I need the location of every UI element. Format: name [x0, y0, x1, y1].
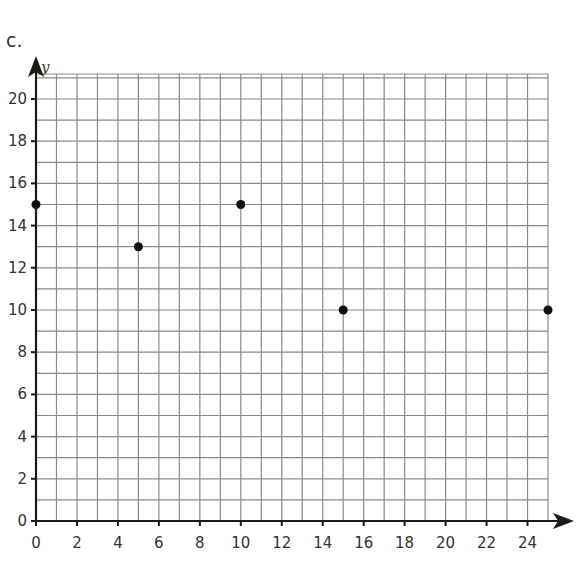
x-tick-label: 18: [395, 534, 414, 552]
y-tick-label: 20: [8, 90, 27, 108]
y-tick-label: 0: [17, 512, 27, 530]
grid-lines: [36, 74, 548, 521]
tick-labels: 02468101214161820222402468101214161820: [8, 90, 537, 552]
x-tick-label: 4: [113, 534, 123, 552]
x-tick-label: 10: [231, 534, 250, 552]
x-tick-label: 24: [518, 534, 537, 552]
data-point: [544, 306, 553, 315]
y-tick-label: 12: [8, 259, 27, 277]
x-tick-label: 14: [313, 534, 332, 552]
y-tick-label: 14: [8, 217, 27, 235]
scatter-chart: 02468101214161820222402468101214161820 y: [0, 0, 577, 575]
x-tick-label: 8: [195, 534, 205, 552]
y-tick-label: 8: [17, 343, 27, 361]
x-tick-label: 12: [272, 534, 291, 552]
x-tick-label: 0: [31, 534, 41, 552]
data-point: [134, 242, 143, 251]
x-tick-label: 22: [477, 534, 496, 552]
y-tick-label: 4: [17, 428, 27, 446]
y-tick-label: 10: [8, 301, 27, 319]
data-point: [236, 200, 245, 209]
x-tick-label: 16: [354, 534, 373, 552]
y-tick-label: 2: [17, 470, 27, 488]
x-tick-label: 20: [436, 534, 455, 552]
data-points: [32, 200, 553, 315]
data-point: [339, 306, 348, 315]
y-axis-label: y: [40, 58, 50, 76]
x-tick-label: 2: [72, 534, 82, 552]
data-point: [32, 200, 41, 209]
y-tick-label: 18: [8, 132, 27, 150]
y-tick-label: 16: [8, 174, 27, 192]
x-tick-label: 6: [154, 534, 164, 552]
y-tick-label: 6: [17, 385, 27, 403]
